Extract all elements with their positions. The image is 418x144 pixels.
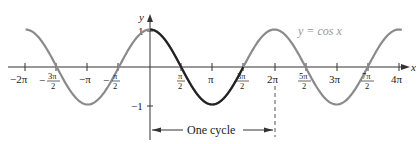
svg-text:−: − bbox=[39, 74, 45, 86]
x-tick-label-negpi: −π bbox=[79, 73, 91, 85]
cosine-chart: x y 1 −1 −2π −π π 2π 3π 4π − 3π 2 − π bbox=[0, 0, 418, 144]
svg-text:2: 2 bbox=[365, 81, 369, 91]
legend-label: y = cos x bbox=[297, 24, 342, 38]
x-tick-label-2pi: 2π bbox=[267, 73, 279, 85]
svg-text:2: 2 bbox=[178, 81, 182, 91]
x-tick-label-3pi2: 3π 2 bbox=[236, 71, 249, 91]
x-tick-label-neg2pi: −2π bbox=[10, 73, 28, 85]
svg-text:3π: 3π bbox=[237, 71, 246, 81]
y-axis-arrow-icon bbox=[147, 14, 153, 22]
x-tick-label-7pi2: 7π 2 bbox=[361, 71, 374, 91]
x-tick-label-3pi: 3π bbox=[329, 73, 341, 85]
arrow-left-icon bbox=[152, 128, 161, 133]
annotation-one-cycle: One cycle bbox=[187, 123, 235, 137]
svg-text:π: π bbox=[178, 71, 183, 81]
x-tick-label-4pi: 4π bbox=[391, 73, 403, 85]
svg-text:π: π bbox=[113, 71, 118, 81]
svg-text:7π: 7π bbox=[362, 71, 371, 81]
svg-text:3π: 3π bbox=[48, 71, 57, 81]
arrow-right-icon bbox=[264, 128, 273, 133]
svg-text:2: 2 bbox=[302, 81, 306, 91]
y-axis-label: y bbox=[138, 11, 144, 23]
svg-text:2: 2 bbox=[113, 81, 117, 91]
x-axis-label: x bbox=[410, 61, 416, 73]
x-axis-arrow-icon bbox=[401, 64, 410, 70]
x-tick-label-pi: π bbox=[208, 73, 214, 85]
y-tick-label-neg1: −1 bbox=[131, 100, 143, 112]
svg-text:2: 2 bbox=[240, 81, 244, 91]
svg-text:5π: 5π bbox=[299, 71, 308, 81]
svg-text:−: − bbox=[103, 74, 109, 86]
svg-text:2: 2 bbox=[51, 81, 55, 91]
x-tick-label-neg3pi2: − 3π 2 bbox=[39, 71, 60, 91]
